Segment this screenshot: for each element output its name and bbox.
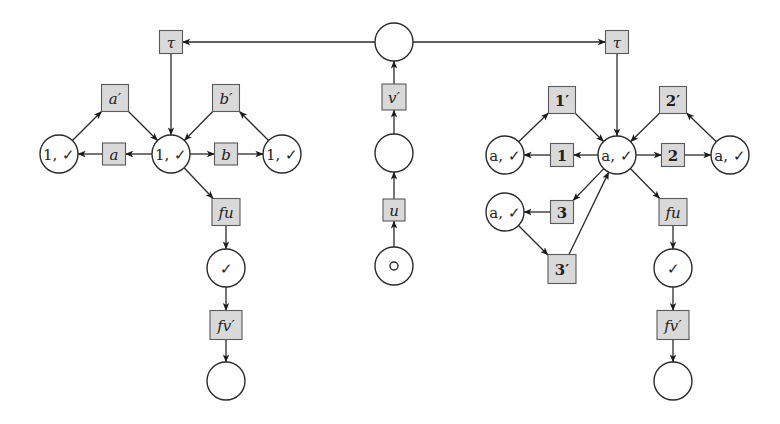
place-L_left: 1, ✓ bbox=[40, 135, 78, 173]
transition-R_tau: τ bbox=[606, 31, 629, 54]
transition-label: 1 bbox=[557, 147, 567, 165]
transition-label: τ bbox=[613, 34, 622, 52]
place-label: ✓ bbox=[220, 260, 233, 278]
transition-L_tau: τ bbox=[160, 31, 183, 54]
transition-t_vp: v′ bbox=[382, 84, 406, 110]
transition-R_3p: 3′ bbox=[548, 255, 576, 284]
place-R_left: a, ✓ bbox=[486, 136, 524, 174]
transition-R_2: 2 bbox=[662, 144, 685, 167]
transition-label: fv′ bbox=[663, 317, 682, 335]
transition-label: 3′ bbox=[555, 261, 569, 279]
petri-net-diagram: uv′τa′ab′bfufv′τ1′12′233′fufv′ 1, ✓1, ✓1… bbox=[0, 0, 780, 424]
arc-R_center-to-R_fu bbox=[630, 169, 659, 199]
transition-t_u: u bbox=[383, 199, 405, 221]
place-L_check: ✓ bbox=[207, 249, 245, 287]
place-label: a, ✓ bbox=[489, 204, 520, 222]
place-circle bbox=[375, 134, 413, 172]
place-label: 1, ✓ bbox=[266, 146, 298, 164]
place-c_mid bbox=[375, 134, 413, 172]
place-circle bbox=[654, 362, 692, 400]
place-c_top bbox=[375, 23, 413, 61]
place-label: a, ✓ bbox=[489, 147, 520, 165]
transition-R_fvp: fv′ bbox=[657, 311, 689, 340]
arc-R_2p-to-R_center bbox=[631, 113, 660, 141]
arc-L_bp-to-L_center bbox=[184, 112, 212, 141]
place-label: a, ✓ bbox=[601, 147, 632, 165]
transition-label: fu bbox=[217, 204, 233, 222]
place-L_end bbox=[207, 362, 245, 400]
transition-R_1: 1 bbox=[551, 144, 574, 167]
transition-R_3: 3 bbox=[551, 201, 574, 224]
transition-label: u bbox=[389, 202, 399, 220]
arc-R_right-to-R_2p bbox=[687, 113, 717, 142]
transition-L_fvp: fv′ bbox=[210, 311, 242, 340]
arc-L_center-to-L_fu bbox=[184, 168, 213, 199]
transition-R_2p: 2′ bbox=[660, 87, 687, 114]
place-circle bbox=[207, 362, 245, 400]
transition-label: 3 bbox=[557, 204, 567, 222]
arc-L_left-to-L_ap bbox=[72, 112, 101, 141]
place-L_center: 1, ✓ bbox=[152, 135, 190, 173]
place-L_right: 1, ✓ bbox=[263, 135, 301, 173]
transitions-layer: uv′τa′ab′bfufv′τ1′12′233′fufv′ bbox=[102, 31, 690, 340]
arc-R_center-to-R_3 bbox=[573, 169, 604, 201]
place-R_end bbox=[654, 362, 692, 400]
token-dot-icon bbox=[390, 262, 398, 270]
arc-R_lower-to-R_3p bbox=[518, 225, 548, 255]
arc-R_1p-to-R_center bbox=[576, 114, 604, 142]
transition-R_fu: fu bbox=[659, 199, 687, 226]
place-R_right: a, ✓ bbox=[711, 136, 749, 174]
transition-label: b′ bbox=[219, 90, 233, 108]
place-label: 1, ✓ bbox=[155, 146, 187, 164]
place-label: 1, ✓ bbox=[43, 146, 75, 164]
transition-L_bp: b′ bbox=[213, 85, 240, 112]
arc-R_left-to-R_1p bbox=[519, 113, 549, 142]
arc-L_right-to-L_bp bbox=[240, 112, 269, 141]
place-c_start bbox=[375, 247, 413, 285]
transition-label: 1′ bbox=[555, 92, 569, 110]
transition-label: v′ bbox=[388, 89, 400, 107]
transition-L_fu: fu bbox=[212, 199, 240, 226]
transition-label: a′ bbox=[109, 90, 122, 108]
transition-label: fv′ bbox=[216, 317, 235, 335]
transition-L_a: a bbox=[103, 143, 126, 165]
place-R_lower: a, ✓ bbox=[486, 193, 524, 231]
transition-label: a bbox=[110, 146, 119, 164]
place-R_center: a, ✓ bbox=[598, 136, 636, 174]
transition-R_1p: 1′ bbox=[549, 87, 576, 114]
place-circle bbox=[375, 23, 413, 61]
transition-label: b bbox=[221, 146, 231, 164]
transition-L_ap: a′ bbox=[102, 85, 129, 112]
place-label: a, ✓ bbox=[714, 147, 745, 165]
place-R_check: ✓ bbox=[654, 249, 692, 287]
transition-label: τ bbox=[167, 34, 176, 52]
place-label: ✓ bbox=[667, 260, 680, 278]
transition-label: 2′ bbox=[666, 92, 680, 110]
transition-L_b: b bbox=[215, 143, 238, 165]
arc-L_ap-to-L_center bbox=[129, 112, 158, 141]
transition-label: fu bbox=[664, 204, 680, 222]
transition-label: 2 bbox=[668, 147, 678, 165]
